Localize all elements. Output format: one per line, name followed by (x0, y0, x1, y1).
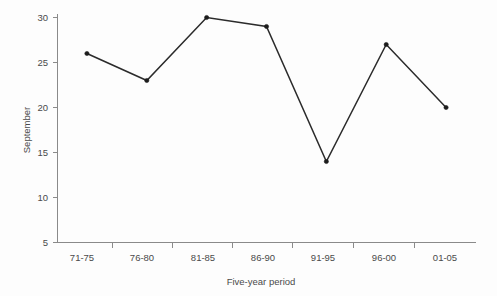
line-chart-figure: 30 25 20 15 10 5 71-75 76-80 81-85 86-90… (0, 0, 497, 296)
x-tick-label: 81-85 (191, 252, 215, 263)
x-tick-label: 96-00 (372, 252, 396, 263)
axis-group (57, 14, 476, 243)
data-point-marker (264, 24, 268, 28)
y-tick-label: 25 (37, 57, 48, 68)
x-tick-label: 76-80 (130, 252, 154, 263)
data-series-september (85, 15, 448, 163)
x-tick-label: 71-75 (70, 252, 94, 263)
data-point-marker (324, 159, 328, 163)
y-axis-title: September (21, 107, 32, 153)
data-point-marker (205, 15, 209, 19)
data-point-marker (85, 51, 89, 55)
y-tick-label: 20 (37, 102, 48, 113)
y-tick-label: 5 (43, 237, 48, 248)
y-tick-label: 15 (37, 147, 48, 158)
y-tick-label: 30 (37, 12, 48, 23)
x-tick-group: 71-75 76-80 81-85 86-90 91-95 96-00 01-0… (70, 243, 457, 264)
x-axis-title: Five-year period (227, 276, 296, 287)
data-point-marker (145, 78, 149, 82)
x-tick-label: 91-95 (311, 252, 335, 263)
y-tick-label: 10 (37, 192, 48, 203)
x-tick-label: 01-05 (433, 252, 457, 263)
y-tick-group: 30 25 20 15 10 5 (37, 12, 57, 248)
data-point-marker (444, 105, 448, 109)
data-point-marker (384, 42, 388, 46)
series-line-september (87, 18, 446, 162)
chart-container: 30 25 20 15 10 5 71-75 76-80 81-85 86-90… (0, 0, 497, 296)
series-marker-group (85, 15, 448, 163)
x-tick-label: 86-90 (251, 252, 275, 263)
